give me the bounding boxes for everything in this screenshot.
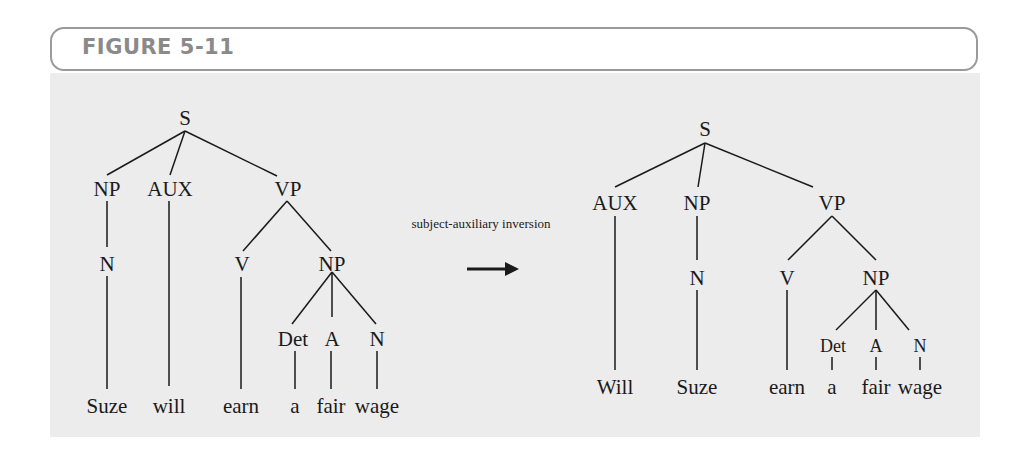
edge xyxy=(243,201,287,251)
edge xyxy=(836,290,876,330)
node-np: NP xyxy=(684,191,711,215)
word: Suze xyxy=(87,394,128,418)
edge xyxy=(615,143,705,187)
node-np-object: NP xyxy=(863,266,890,290)
node-v: V xyxy=(779,266,794,290)
word: fair xyxy=(316,394,345,418)
node-n: N xyxy=(99,252,114,276)
node-n: N xyxy=(689,266,704,290)
word: Suze xyxy=(677,375,718,399)
right-tree: S AUX NP VP N V NP Det A N Will Suze ear… xyxy=(592,117,942,399)
word: Will xyxy=(597,375,634,399)
edge xyxy=(832,216,876,260)
node-v: V xyxy=(234,252,249,276)
node-np: NP xyxy=(94,177,121,201)
node-n-object: N xyxy=(914,336,927,356)
edge xyxy=(287,201,331,251)
edge xyxy=(788,216,832,260)
edge xyxy=(185,131,277,176)
word: earn xyxy=(769,375,806,399)
edge xyxy=(332,272,376,324)
node-vp: VP xyxy=(275,177,302,201)
edge xyxy=(705,143,813,187)
right-arrow-icon xyxy=(467,262,519,276)
word: wage xyxy=(355,394,399,418)
transformation-label: subject-auxiliary inversion xyxy=(412,216,551,231)
edge xyxy=(107,131,185,175)
syntax-tree-diagram: S NP AUX VP N V NP Det A N Suze will ear… xyxy=(0,0,1022,450)
node-aux: AUX xyxy=(592,191,638,215)
edge xyxy=(698,143,705,187)
word: wage xyxy=(898,375,942,399)
node-aux: AUX xyxy=(147,177,193,201)
word: fair xyxy=(861,375,890,399)
edge xyxy=(292,272,332,324)
word: earn xyxy=(223,394,260,418)
transformation: subject-auxiliary inversion xyxy=(412,216,551,276)
word: a xyxy=(827,375,837,399)
edge xyxy=(876,290,909,330)
left-tree: S NP AUX VP N V NP Det A N Suze will ear… xyxy=(87,106,400,418)
node-np-object: NP xyxy=(319,252,346,276)
node-vp: VP xyxy=(819,191,846,215)
node-a: A xyxy=(324,327,340,351)
node-det: Det xyxy=(278,327,308,351)
node-s: S xyxy=(699,117,711,141)
node-s: S xyxy=(179,106,191,130)
node-det: Det xyxy=(820,336,846,356)
node-a: A xyxy=(870,336,883,356)
word: a xyxy=(290,394,300,418)
node-n-object: N xyxy=(369,327,384,351)
word: will xyxy=(153,394,186,418)
